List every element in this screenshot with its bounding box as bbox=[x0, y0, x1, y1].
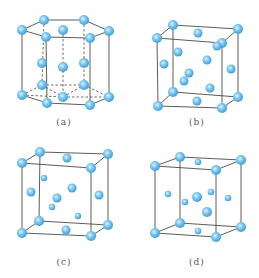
cell-edge bbox=[173, 92, 238, 97]
atom bbox=[182, 199, 189, 206]
atom bbox=[42, 98, 52, 108]
atom bbox=[49, 204, 55, 210]
atom bbox=[206, 84, 215, 93]
atom bbox=[53, 194, 62, 203]
atom bbox=[174, 48, 183, 57]
panel-b-cubic-cell bbox=[152, 20, 243, 113]
atom bbox=[39, 15, 49, 25]
cell-edge bbox=[180, 157, 241, 160]
atom bbox=[86, 163, 96, 173]
atom bbox=[195, 159, 202, 166]
atom bbox=[95, 191, 104, 200]
atom bbox=[62, 226, 71, 235]
atom bbox=[37, 80, 47, 90]
atom bbox=[27, 188, 36, 197]
cell-edge bbox=[22, 233, 91, 236]
atom bbox=[75, 213, 81, 219]
atom bbox=[175, 152, 185, 162]
cell-edge bbox=[39, 152, 40, 221]
atom bbox=[17, 90, 27, 100]
atom bbox=[17, 228, 27, 238]
atom bbox=[233, 92, 243, 102]
atom bbox=[202, 207, 212, 217]
atom bbox=[37, 58, 47, 68]
atom bbox=[180, 77, 189, 86]
cell-edge bbox=[173, 25, 238, 29]
crystal-structures-figure bbox=[0, 0, 259, 278]
panel-label-a: (a) bbox=[56, 117, 71, 127]
atom bbox=[150, 228, 160, 238]
atom bbox=[34, 216, 44, 226]
cell-edge bbox=[157, 38, 222, 43]
atom bbox=[211, 165, 221, 175]
atom bbox=[213, 42, 222, 51]
atom bbox=[203, 56, 212, 65]
atom bbox=[194, 29, 203, 38]
panel-d-cubic-cell bbox=[150, 152, 246, 242]
atom bbox=[193, 97, 202, 106]
panel-c-cubic-cell bbox=[17, 147, 113, 241]
atom bbox=[233, 24, 243, 34]
cell-edge bbox=[47, 103, 90, 105]
atom bbox=[227, 65, 236, 74]
panel-label-d: (d) bbox=[189, 257, 205, 267]
atom bbox=[86, 231, 96, 241]
atom bbox=[79, 80, 89, 90]
atom bbox=[85, 33, 95, 43]
cell-edge bbox=[158, 106, 222, 108]
atom bbox=[63, 154, 72, 163]
atom bbox=[152, 33, 162, 43]
panel-label-b: (b) bbox=[189, 117, 205, 127]
atom bbox=[41, 175, 47, 181]
atom bbox=[195, 228, 202, 235]
cell-edge bbox=[157, 38, 158, 106]
hidden-edge bbox=[42, 20, 44, 85]
atom bbox=[58, 62, 68, 72]
cell-edge bbox=[155, 166, 216, 170]
atom bbox=[211, 232, 221, 242]
atom bbox=[79, 58, 89, 68]
atom bbox=[103, 149, 113, 159]
atom bbox=[185, 69, 194, 78]
atom bbox=[17, 25, 27, 35]
atom bbox=[153, 101, 163, 111]
panel-a-hcp-cell bbox=[17, 15, 114, 110]
cell-edge bbox=[155, 233, 216, 237]
atom bbox=[225, 195, 232, 202]
cell-edge bbox=[22, 163, 91, 168]
atom bbox=[168, 87, 178, 97]
atom bbox=[217, 103, 227, 113]
atom bbox=[175, 218, 185, 228]
atom bbox=[208, 189, 215, 196]
atom bbox=[160, 60, 169, 69]
atom bbox=[104, 26, 114, 36]
atom bbox=[35, 147, 45, 157]
atom bbox=[41, 32, 51, 42]
atom bbox=[79, 15, 89, 25]
atom bbox=[104, 92, 114, 102]
atom bbox=[150, 161, 160, 171]
cell-edge bbox=[40, 152, 108, 154]
cell-edge bbox=[39, 221, 108, 225]
cell-edge bbox=[46, 37, 47, 103]
atom bbox=[192, 192, 202, 202]
atom bbox=[236, 155, 246, 165]
atom bbox=[68, 184, 77, 193]
atom bbox=[103, 220, 113, 230]
atom bbox=[236, 222, 246, 232]
atom bbox=[58, 92, 68, 102]
cell-edge bbox=[180, 223, 241, 227]
panel-label-c: (c) bbox=[56, 257, 71, 267]
atom bbox=[85, 100, 95, 110]
cell-edge bbox=[46, 37, 90, 38]
atom bbox=[17, 158, 27, 168]
atom bbox=[168, 20, 178, 30]
atom bbox=[58, 25, 68, 35]
atom bbox=[165, 191, 172, 198]
